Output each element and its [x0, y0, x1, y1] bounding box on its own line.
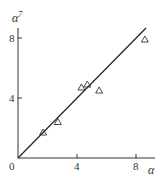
- triangle-marker-icon: [141, 36, 148, 42]
- scatter-plot: 0 4 8 4 8 α α7: [0, 0, 165, 181]
- x-axis-label: α: [148, 163, 155, 177]
- origin-label: 0: [9, 160, 15, 172]
- y-tick-label-8: 8: [9, 32, 15, 44]
- fit-line: [18, 28, 146, 158]
- x-tick-label-4: 4: [74, 160, 80, 172]
- y-axis-label: α7: [12, 10, 23, 25]
- y-tick-label-4: 4: [9, 92, 15, 104]
- triangle-marker-icon: [96, 87, 103, 93]
- triangle-marker-icon: [84, 81, 91, 87]
- x-tick-label-8: 8: [133, 160, 139, 172]
